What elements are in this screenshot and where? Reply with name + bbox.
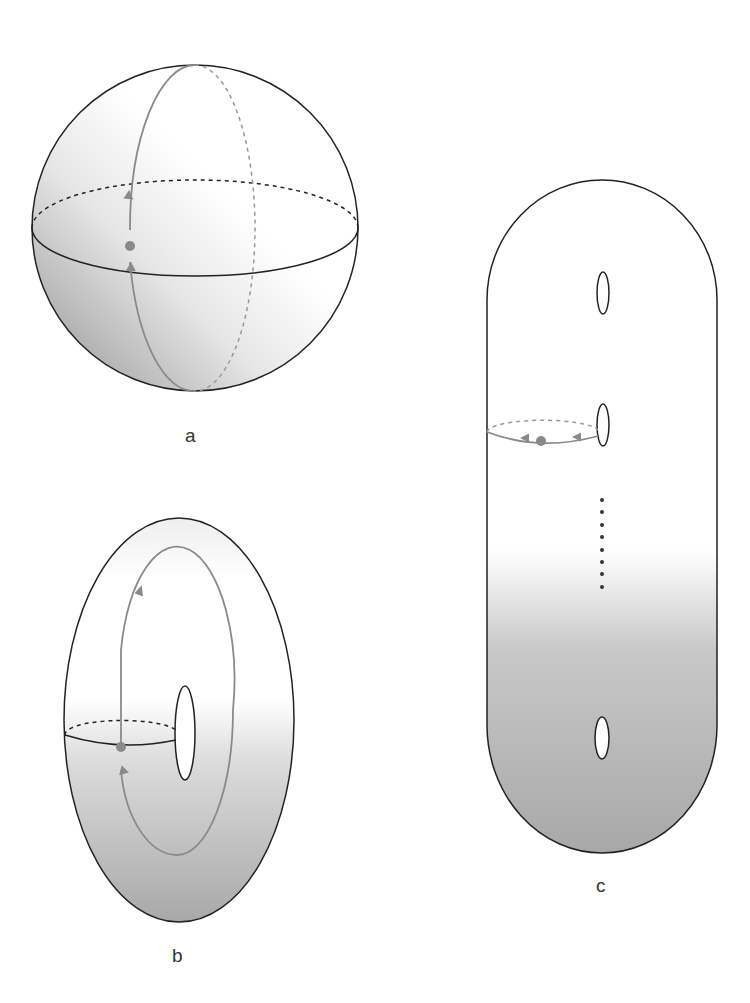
panel-label-c: c (596, 875, 606, 897)
panel-label-a: a (185, 425, 196, 447)
sphere-figure (32, 65, 358, 391)
diagram-canvas (0, 0, 750, 1003)
panel-label-b: b (172, 945, 183, 967)
torus-figure (64, 518, 294, 922)
multi-hole-figure (487, 180, 717, 853)
